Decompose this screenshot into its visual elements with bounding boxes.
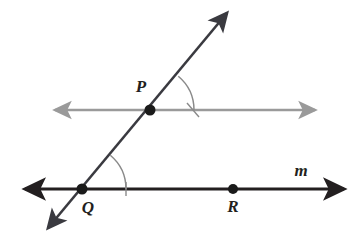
point-label-p: P xyxy=(135,77,147,96)
transversal-line xyxy=(48,13,227,228)
point-dot-q xyxy=(77,184,88,195)
geometry-canvas: P Q R m xyxy=(0,0,356,239)
point-dot-r xyxy=(228,184,238,194)
line-label-m: m xyxy=(294,161,307,180)
point-label-q: Q xyxy=(82,198,94,217)
angle-arc-at-q xyxy=(110,155,126,189)
angle-arc-at-p xyxy=(178,76,194,110)
geometry-figure: P Q R m xyxy=(0,0,356,239)
point-dot-p xyxy=(145,105,156,116)
point-label-r: R xyxy=(226,197,238,216)
